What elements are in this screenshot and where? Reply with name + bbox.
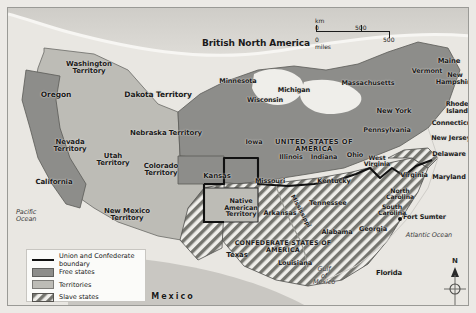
territories-swatch: [32, 280, 54, 289]
slave-hatch-swatch-icon: [33, 294, 53, 301]
fort-sumter-marker-dot: [398, 217, 402, 221]
legend-item-slave-states: Slave states: [32, 292, 140, 303]
legend-label-boundary: Union and Confederate boundary: [59, 252, 140, 268]
free-states-swatch: [32, 268, 54, 277]
scale-unit-miles: miles: [315, 43, 331, 50]
scale-km-value: 500: [355, 24, 366, 31]
map-legend: Union and Confederate boundary Free stat…: [26, 249, 146, 302]
legend-item-territories: Territories: [32, 279, 140, 290]
map-figure: British North America UNITED STATES OF A…: [0, 0, 476, 313]
legend-label-free-states: Free states: [59, 268, 95, 276]
scale-unit-km: km: [315, 17, 324, 24]
boundary-line-swatch: [32, 255, 54, 264]
legend-item-free-states: Free states: [32, 267, 140, 278]
slave-states-swatch: [32, 293, 54, 302]
native-american-territory-region: [204, 188, 258, 222]
legend-item-boundary: Union and Confederate boundary: [32, 254, 140, 265]
compass-rose: N: [440, 257, 469, 306]
legend-label-slave-states: Slave states: [59, 293, 99, 301]
compass-north-label: N: [440, 257, 469, 265]
compass-needle-icon: [440, 265, 469, 306]
map-frame: British North America UNITED STATES OF A…: [7, 7, 469, 306]
scale-line-km: [316, 31, 390, 32]
kansas-region: [178, 156, 224, 184]
map-scale-bar: km 0 500 0 miles 500: [315, 17, 411, 50]
scale-mi-value: 500: [383, 36, 394, 43]
legend-label-territories: Territories: [59, 281, 91, 289]
scale-mi-zero: 0: [315, 36, 319, 43]
